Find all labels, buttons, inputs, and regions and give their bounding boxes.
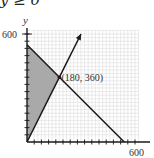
feasible-region-graph: y 600 600 (180, 360) [0, 0, 154, 158]
y-axis-label: y [22, 14, 28, 26]
x-max-label: 600 [129, 147, 144, 158]
intersection-label: (180, 360) [61, 72, 103, 84]
y-max-label: 600 [2, 29, 17, 40]
